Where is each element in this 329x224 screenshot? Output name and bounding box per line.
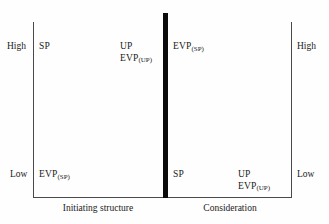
cell-text-line: EVP(SP) (39, 169, 70, 182)
cell-text-subscript: (UP) (138, 56, 152, 64)
cell-text-line: SP (173, 169, 184, 181)
cell-bottom-right: UPEVP(UP) (238, 169, 270, 193)
cell-text-line: EVP(UP) (238, 181, 270, 194)
axis-caption-consideration: Consideration (168, 203, 292, 214)
cell-text-line: EVP(UP) (120, 53, 152, 66)
cell-top-right: EVP(SP) (173, 41, 204, 54)
cell-top-left: SP (39, 41, 50, 53)
cell-text-subscript: (SP) (57, 173, 69, 181)
scale-label-low-left: Low (10, 169, 27, 180)
scale-label-high-right: High (297, 41, 316, 52)
cell-text-line: SP (39, 41, 50, 53)
leadership-grid-figure: High Low High Low SP UPEVP(UP) EVP(SP) E… (0, 0, 329, 224)
scale-label-high-left: High (7, 41, 26, 52)
cell-bottom-mid: SP (173, 169, 184, 181)
scale-label-low-right: Low (297, 169, 314, 180)
axis-caption-initiating-structure: Initiating structure (33, 203, 163, 214)
cell-bottom-left: EVP(SP) (39, 169, 70, 182)
cell-text-line: UP (120, 41, 152, 53)
right-axis-line (291, 22, 292, 198)
cell-text-subscript: (SP) (191, 45, 203, 53)
left-axis-line (33, 22, 34, 198)
cell-text-line: UP (238, 169, 270, 181)
cell-top-mid: UPEVP(UP) (120, 41, 152, 65)
center-divider-bar (163, 13, 168, 198)
cell-text-line: EVP(SP) (173, 41, 204, 54)
cell-text-subscript: (UP) (256, 184, 270, 192)
